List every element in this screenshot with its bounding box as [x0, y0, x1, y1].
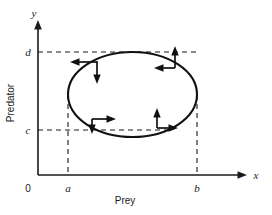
- x-axis-symbol-label: x: [253, 169, 259, 181]
- phase-plane-svg: y x 0 a b d c Prey Predator: [0, 0, 272, 215]
- y-axis-title: Predator: [5, 83, 16, 122]
- arrow-right-icon: [92, 115, 116, 122]
- y-axis-arrowhead: [34, 20, 42, 30]
- arrow-down-icon: [93, 62, 100, 84]
- arrow-left-icon: [154, 64, 175, 71]
- labels-group: y x 0 a b d c Prey Predator: [5, 7, 259, 206]
- phase-plane-figure: y x 0 a b d c Prey Predator: [0, 0, 272, 215]
- axes-group: [34, 20, 247, 179]
- tick-label-b: b: [194, 182, 200, 194]
- y-axis-symbol-label: y: [31, 7, 37, 19]
- closed-orbit-curve: [68, 52, 197, 137]
- x-axis-arrowhead: [238, 171, 248, 179]
- direction-field-group: [70, 46, 179, 134]
- tick-label-d: d: [25, 46, 31, 58]
- orbit-group: [68, 52, 197, 137]
- tick-label-a: a: [65, 182, 71, 194]
- tick-label-c: c: [26, 124, 31, 136]
- arrow-up-icon: [153, 108, 160, 128]
- x-axis-title: Prey: [115, 195, 136, 206]
- origin-label: 0: [25, 183, 31, 194]
- arrow-down-icon: [88, 119, 95, 134]
- guide-lines-group: [38, 52, 198, 175]
